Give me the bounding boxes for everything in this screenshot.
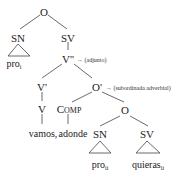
node-v-bar: V' [37,81,47,93]
node-sn: SN [11,32,25,44]
syntax-tree: O SN proi SV V'' → (adjunto) V' O' → (su… [0,0,188,188]
annotation-subordinada-adverbial: → (subordinada adverbial) [106,85,171,92]
node-v: V [38,103,46,115]
node-sn-embedded: SN [93,128,107,140]
node-sv: SV [61,32,75,44]
leaf-pro-i: proi [6,58,21,70]
leaf-adonde: adonde [59,128,88,139]
node-o-bar: O' [92,81,102,93]
leaf-quieras-ii: quierasii [132,159,165,171]
node-v-double-bar: V'' [62,53,74,65]
annotation-adjunto: → (adjunto) [77,57,107,64]
node-comp: COMP [57,103,82,115]
node-sv-embedded: SV [140,128,154,140]
leaf-vamos: vamos, [29,128,58,139]
leaf-pro-ii: proii [92,159,109,171]
node-o-embedded: O [121,104,129,116]
node-o-root: O [40,6,48,18]
